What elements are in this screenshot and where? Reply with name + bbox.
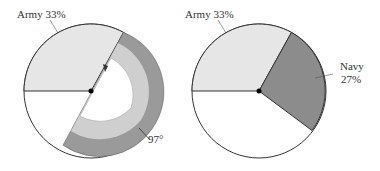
left-army-label: Army 33% [17,8,66,20]
right-army-label: Army 33% [185,8,234,20]
angle-label: 97° [148,133,163,145]
right-pie [192,20,333,158]
center-dot [89,89,94,94]
pie-diagrams [0,0,380,171]
navy-label: Navy [340,60,364,72]
left-pie [24,20,164,158]
center-dot [257,89,262,94]
navy-percent: 27% [341,73,361,85]
